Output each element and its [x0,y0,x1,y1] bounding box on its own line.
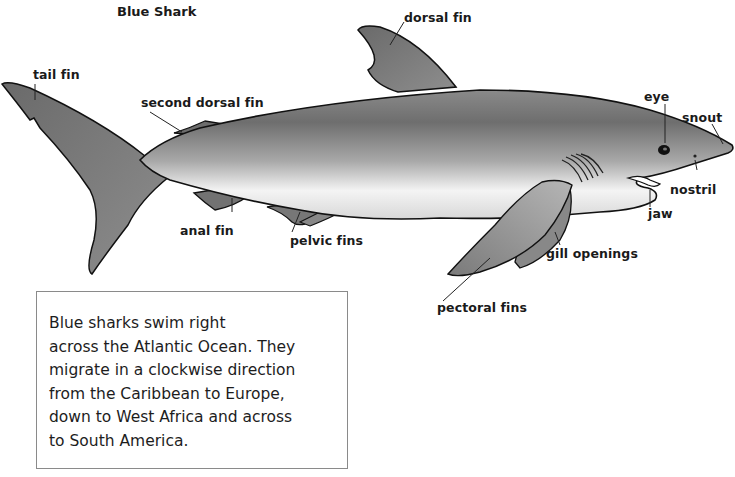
caption-line: from the Caribbean to Europe, [49,383,344,407]
eye-shape [658,145,670,155]
label-dorsal-fin: dorsal fin [404,10,472,25]
nostril-shape [693,154,696,157]
caption-line: across the Atlantic Ocean. They [49,336,344,360]
blue-shark-diagram: Blue Shark [0,0,735,477]
label-snout: snout [682,110,722,125]
label-tail-fin: tail fin [33,67,80,82]
dorsal-fin-shape [358,26,456,92]
caption-line: Blue sharks swim right [49,312,344,336]
label-gill-openings: gill openings [546,246,638,261]
label-anal-fin: anal fin [180,223,234,238]
caption-text: Blue sharks swim right across the Atlant… [49,312,344,453]
caption-line: down to West Africa and across [49,406,344,430]
label-jaw: jaw [648,206,673,221]
label-nostril: nostril [670,182,716,197]
tail-fin-shape [2,83,170,274]
label-pelvic-fins: pelvic fins [290,233,363,248]
caption-line: migrate in a clockwise direction [49,359,344,383]
caption-box: Blue sharks swim right across the Atlant… [36,291,348,469]
label-second-dorsal-fin: second dorsal fin [141,95,264,110]
label-eye: eye [644,89,669,104]
label-pectoral-fins: pectoral fins [437,300,527,315]
caption-line: to South America. [49,430,344,454]
